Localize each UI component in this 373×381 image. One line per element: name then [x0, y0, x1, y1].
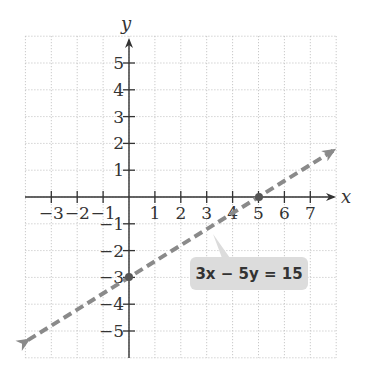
- y-tick-label: 2: [113, 133, 124, 153]
- y-tick-label: 5: [113, 53, 124, 73]
- x-tick-label: −2: [65, 203, 90, 223]
- x-tick-label: 3: [201, 203, 212, 223]
- y-tick-label: −1: [99, 214, 124, 234]
- x-tick-label: 1: [149, 203, 160, 223]
- y-tick-label: 1: [113, 160, 124, 180]
- equation-label: 3x − 5y = 15: [195, 265, 302, 283]
- y-tick-label: 3: [113, 107, 124, 127]
- y-tick-label: −3: [99, 267, 124, 287]
- y-axis-label: y: [120, 13, 132, 34]
- graph: −3−2−1123456754321−1−2−3−4−5 y x 3x − 5y…: [0, 0, 373, 381]
- y-intercept-point: [125, 273, 133, 281]
- x-tick-label: 6: [279, 203, 290, 223]
- y-tick-label: −5: [99, 321, 124, 341]
- x-tick-label: 5: [253, 203, 264, 223]
- x-intercept-point: [255, 193, 263, 201]
- y-tick-label: −2: [99, 241, 124, 261]
- x-tick-label: 2: [175, 203, 186, 223]
- x-tick-label: 7: [305, 203, 316, 223]
- x-tick-label: −3: [39, 203, 64, 223]
- y-tick-label: 4: [113, 80, 124, 100]
- x-axis-label: x: [341, 186, 351, 207]
- line-3x-5y-15: [28, 150, 334, 340]
- label-pointer: [213, 234, 230, 258]
- y-tick-label: −4: [99, 294, 124, 314]
